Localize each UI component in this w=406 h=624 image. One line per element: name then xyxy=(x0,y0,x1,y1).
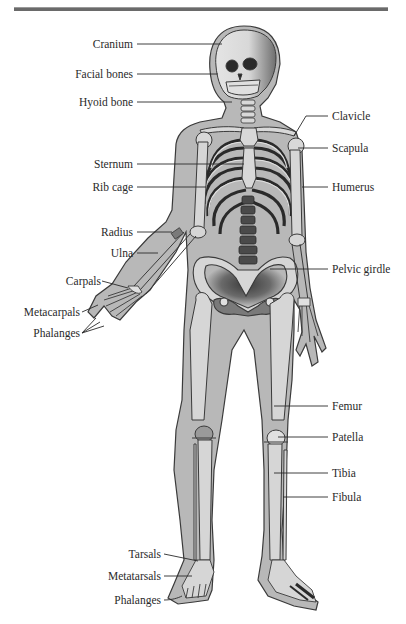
label-sternum: Sternum xyxy=(94,157,133,171)
lower-leg-bones xyxy=(194,440,287,560)
label-facial-bones: Facial bones xyxy=(75,67,133,81)
label-humerus: Humerus xyxy=(332,180,374,194)
label-fibula: Fibula xyxy=(332,490,361,504)
label-phalanges-foot: Phalanges xyxy=(114,593,161,607)
label-tarsals: Tarsals xyxy=(129,547,161,561)
label-metatarsals: Metatarsals xyxy=(108,569,161,583)
label-tibia: Tibia xyxy=(332,466,356,480)
label-cranium: Cranium xyxy=(93,37,133,51)
label-hyoid-bone: Hyoid bone xyxy=(79,95,133,109)
label-patella: Patella xyxy=(332,430,363,444)
label-ulna: Ulna xyxy=(111,246,133,260)
label-rib-cage: Rib cage xyxy=(92,180,133,194)
label-pelvic-girdle: Pelvic girdle xyxy=(332,262,390,276)
label-scapula: Scapula xyxy=(332,141,368,155)
label-phalanges-hand: Phalanges xyxy=(33,326,80,340)
label-radius: Radius xyxy=(101,225,133,239)
label-carpals: Carpals xyxy=(66,274,101,288)
label-metacarpals: Metacarpals xyxy=(24,305,80,319)
feet xyxy=(182,560,316,602)
lumbar-spine xyxy=(239,196,257,264)
label-femur: Femur xyxy=(332,399,362,413)
label-clavicle: Clavicle xyxy=(332,109,370,123)
